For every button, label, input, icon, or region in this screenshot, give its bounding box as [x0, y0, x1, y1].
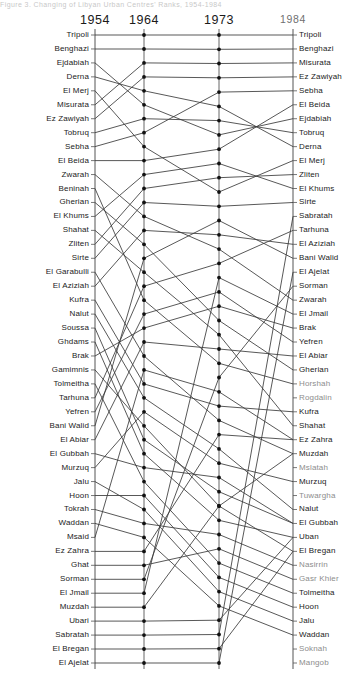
- right-label-46: Mangob: [299, 659, 329, 667]
- data-point-1973: [217, 47, 221, 51]
- left-label-38: Ez Zahra: [55, 547, 89, 555]
- data-point-1964: [142, 159, 146, 163]
- right-label-19: Sorman: [299, 282, 328, 290]
- data-point-1964: [142, 438, 146, 442]
- right-label-43: Jalu: [299, 617, 314, 625]
- data-point-1973: [217, 490, 221, 494]
- data-point-1964: [142, 480, 146, 484]
- left-label-41: El Jmail: [60, 589, 89, 597]
- left-label-35: Tokrah: [64, 505, 89, 513]
- left-label-22: Soussa: [61, 324, 89, 332]
- right-label-25: Gherian: [299, 366, 329, 374]
- data-point-1964: [142, 201, 146, 205]
- left-label-14: El Khums: [54, 212, 89, 220]
- left-label-45: El Bregan: [53, 645, 89, 653]
- data-point-1964: [142, 312, 146, 316]
- data-point-1973: [217, 176, 221, 180]
- left-label-21: Nalut: [70, 310, 89, 318]
- right-label-38: El Bregan: [299, 547, 335, 555]
- data-point-1964: [142, 633, 146, 637]
- left-label-12: Beninah: [59, 185, 89, 193]
- data-point-1964: [142, 145, 146, 149]
- left-label-9: Sebha: [65, 143, 89, 151]
- right-label-11: Zliten: [299, 171, 319, 179]
- left-label-11: Zwarah: [61, 171, 89, 179]
- left-label-31: El Gubbah: [50, 450, 89, 458]
- left-label-7: Ez Zawiyah: [46, 115, 89, 123]
- data-point-1964: [142, 563, 146, 567]
- left-label-1: Tripoli: [66, 31, 89, 39]
- right-label-5: Sebha: [299, 87, 323, 95]
- series-line: [95, 314, 293, 509]
- data-point-1973: [217, 461, 221, 465]
- data-point-1973: [217, 162, 221, 166]
- series-line: [95, 91, 293, 147]
- data-point-1964: [142, 298, 146, 302]
- data-point-1973: [217, 105, 221, 109]
- right-label-28: Kufra: [299, 408, 319, 416]
- data-point-1973: [217, 119, 221, 123]
- data-point-1973: [217, 304, 221, 308]
- left-label-27: Tarhuna: [59, 394, 89, 402]
- left-label-42: Muzdah: [60, 603, 89, 611]
- right-label-20: Zwarah: [299, 296, 327, 304]
- series-line: [95, 105, 293, 161]
- data-point-1973: [217, 561, 221, 565]
- data-point-1973: [217, 33, 221, 37]
- left-label-17: Sirte: [72, 254, 89, 262]
- left-label-24: Brak: [72, 352, 89, 360]
- series-line: [95, 292, 293, 412]
- right-label-13: Sirte: [299, 198, 316, 206]
- data-point-1973: [217, 433, 221, 437]
- left-label-18: El Garabulli: [46, 268, 89, 276]
- left-label-40: Sorman: [60, 575, 89, 583]
- right-label-40: Gasr Khier: [299, 575, 339, 583]
- right-label-3: Misurata: [299, 59, 331, 67]
- data-point-1973: [217, 504, 221, 508]
- data-point-1964: [142, 368, 146, 372]
- data-point-1973: [217, 419, 221, 423]
- right-label-29: Shahat: [299, 422, 325, 430]
- left-label-15: Shahat: [63, 226, 89, 234]
- series-line: [95, 189, 293, 384]
- data-point-1973: [217, 133, 221, 137]
- left-label-16: Zliten: [69, 240, 89, 248]
- left-label-26: Tolmeitha: [53, 380, 89, 388]
- data-point-1973: [217, 347, 221, 351]
- right-label-9: Derna: [299, 143, 322, 151]
- left-label-2: Benghazi: [54, 45, 89, 53]
- left-label-39: Ghat: [71, 561, 89, 569]
- data-point-1973: [217, 647, 221, 651]
- data-point-1973: [217, 204, 221, 208]
- series-line: [95, 342, 293, 440]
- data-point-1973: [217, 62, 221, 66]
- series-line: [95, 175, 293, 245]
- left-label-32: Murzuq: [61, 464, 89, 472]
- right-label-36: El Gubbah: [299, 519, 338, 527]
- right-label-31: Muzdah: [299, 450, 328, 458]
- left-label-4: Derna: [66, 73, 89, 81]
- series-line: [95, 370, 293, 552]
- data-point-1964: [142, 131, 146, 135]
- left-label-46: El Ajelat: [59, 659, 89, 667]
- series-line: [95, 342, 293, 537]
- left-label-37: Msaid: [67, 533, 89, 541]
- data-point-1964: [142, 103, 146, 107]
- data-point-1973: [217, 361, 221, 365]
- data-point-1973: [217, 147, 221, 151]
- data-point-1964: [142, 410, 146, 414]
- data-point-1964: [142, 33, 146, 37]
- data-point-1964: [142, 256, 146, 260]
- right-label-35: Nalut: [299, 505, 318, 513]
- right-label-27: Rogdalin: [299, 394, 332, 402]
- data-point-1964: [142, 382, 146, 386]
- right-label-10: El Merj: [299, 157, 325, 165]
- data-point-1973: [217, 247, 221, 251]
- series-line: [95, 203, 293, 370]
- right-label-30: Ez Zahra: [299, 436, 333, 444]
- data-point-1973: [217, 262, 221, 266]
- data-point-1964: [142, 396, 146, 400]
- right-label-41: Tolmeitha: [299, 589, 335, 597]
- series-line: [95, 384, 293, 593]
- data-point-1973: [217, 390, 221, 394]
